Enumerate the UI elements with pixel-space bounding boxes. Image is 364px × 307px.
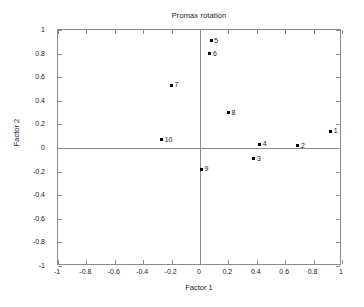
y-tick-label: -1 <box>0 262 50 269</box>
point-marker-icon <box>252 157 255 160</box>
y-tick <box>58 242 62 243</box>
x-axis-label: Factor 1 <box>57 283 341 292</box>
y-tick <box>336 266 340 267</box>
y-tick <box>336 30 340 31</box>
point-marker-icon <box>227 111 230 114</box>
x-tick-label: 0 <box>197 268 201 275</box>
y-tick-label: -0.2 <box>0 167 50 174</box>
point-marker-icon <box>210 39 213 42</box>
y-tick <box>336 195 340 196</box>
x-tick <box>143 260 144 264</box>
y-tick <box>58 77 62 78</box>
data-point-label: 2 <box>301 141 305 150</box>
y-tick <box>58 148 62 149</box>
x-tick <box>228 260 229 264</box>
y-tick <box>58 30 62 31</box>
x-tick <box>58 260 59 264</box>
y-tick <box>336 77 340 78</box>
x-tick-label: 0.8 <box>308 268 318 275</box>
x-tick <box>143 30 144 34</box>
y-tick <box>336 101 340 102</box>
x-tick <box>200 260 201 264</box>
x-tick <box>314 260 315 264</box>
x-tick-label: -1 <box>54 268 60 275</box>
data-point-label: 7 <box>175 80 179 89</box>
point-marker-icon <box>296 144 299 147</box>
x-tick <box>342 260 343 264</box>
y-tick <box>58 101 62 102</box>
y-tick-label: -0.4 <box>0 191 50 198</box>
plot-area: 12345678910 <box>57 29 341 265</box>
point-marker-icon <box>200 168 203 171</box>
chart-title: Promax rotation <box>57 11 341 20</box>
point-marker-icon <box>258 143 261 146</box>
y-tick <box>58 266 62 267</box>
y-tick <box>336 124 340 125</box>
y-tick-label: 0.4 <box>0 96 50 103</box>
x-tick <box>257 30 258 34</box>
x-tick <box>86 260 87 264</box>
y-tick <box>336 54 340 55</box>
point-marker-icon <box>208 52 211 55</box>
y-tick <box>58 219 62 220</box>
y-tick-label: 0.8 <box>0 49 50 56</box>
data-point-label: 4 <box>263 139 267 148</box>
y-tick <box>58 172 62 173</box>
x-tick <box>200 30 201 34</box>
data-point-label: 3 <box>257 154 261 163</box>
data-point-label: 1 <box>334 126 338 135</box>
x-tick-label: 0.4 <box>251 268 261 275</box>
y-tick <box>336 219 340 220</box>
point-marker-icon <box>170 84 173 87</box>
x-tick <box>115 260 116 264</box>
y-tick-label: 0.2 <box>0 120 50 127</box>
y-tick-label: 1 <box>0 26 50 33</box>
y-tick <box>336 172 340 173</box>
y-tick-label: 0 <box>0 144 50 151</box>
x-tick-label: 0.2 <box>223 268 233 275</box>
y-tick-label: -0.8 <box>0 238 50 245</box>
point-marker-icon <box>160 138 163 141</box>
x-tick <box>86 30 87 34</box>
y-tick <box>336 148 340 149</box>
x-tick-label: 0.6 <box>279 268 289 275</box>
y-tick <box>58 124 62 125</box>
x-tick <box>285 30 286 34</box>
point-marker-icon <box>329 130 332 133</box>
y-tick-label: 0.6 <box>0 73 50 80</box>
zero-line-horizontal <box>58 148 340 149</box>
y-tick <box>58 54 62 55</box>
scatter-plot-figure: Promax rotation 12345678910 -1-0.8-0.6-0… <box>0 0 364 307</box>
x-tick <box>314 30 315 34</box>
data-point-label: 5 <box>214 36 218 45</box>
y-axis-label: Factor 2 <box>12 103 21 163</box>
x-tick <box>115 30 116 34</box>
y-tick-label: -0.6 <box>0 214 50 221</box>
x-tick-label: -0.8 <box>79 268 91 275</box>
x-tick-label: -0.2 <box>165 268 177 275</box>
data-point-label: 10 <box>165 135 173 144</box>
x-tick <box>257 260 258 264</box>
x-tick-label: -0.4 <box>136 268 148 275</box>
data-point-label: 8 <box>231 108 235 117</box>
x-tick <box>285 260 286 264</box>
y-tick <box>336 242 340 243</box>
x-tick <box>342 30 343 34</box>
y-tick <box>58 195 62 196</box>
x-tick-label: 1 <box>339 268 343 275</box>
zero-line-vertical <box>200 30 201 264</box>
data-point-label: 6 <box>213 49 217 58</box>
x-tick <box>172 260 173 264</box>
x-tick-label: -0.6 <box>108 268 120 275</box>
x-tick <box>228 30 229 34</box>
x-tick <box>172 30 173 34</box>
data-point-label: 9 <box>204 164 208 173</box>
